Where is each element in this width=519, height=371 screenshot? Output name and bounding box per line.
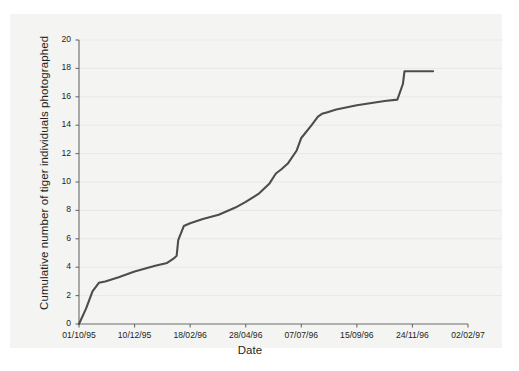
cumulative-curve [79,71,433,324]
x-axis-title: Date [190,344,310,356]
y-tick-label: 18 [45,62,71,72]
x-tick-label: 02/02/97 [433,330,503,340]
y-tick-label: 4 [45,261,71,271]
y-tick-label: 14 [45,119,71,129]
chart-plot-area [0,0,519,371]
y-tick-label: 10 [45,176,71,186]
y-tick-label: 20 [45,34,71,44]
tiger-photo-accumulation-chart: Cumulative number of tiger individuals p… [0,0,519,371]
y-tick-label: 0 [45,318,71,328]
y-tick-label: 16 [45,91,71,101]
y-tick-label: 8 [45,204,71,214]
y-tick-label: 6 [45,233,71,243]
y-tick-label: 2 [45,290,71,300]
y-tick-label: 12 [45,148,71,158]
gridlines-group [79,40,502,296]
